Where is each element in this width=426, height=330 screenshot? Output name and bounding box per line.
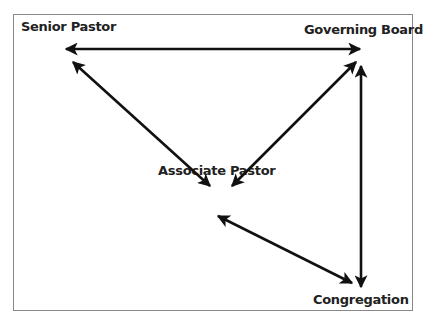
arrow-senior-associate: [73, 62, 210, 186]
arrow-governing-associate: [232, 62, 356, 186]
arrow-associate-congregation: [218, 216, 352, 283]
arrows-layer: [0, 0, 426, 330]
